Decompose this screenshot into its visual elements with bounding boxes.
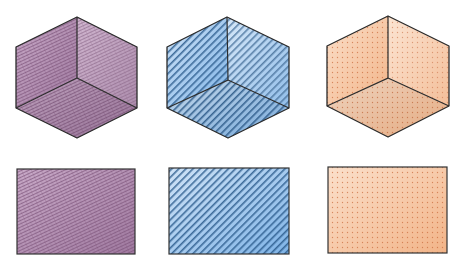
cubes-row	[16, 16, 449, 138]
swatches-row	[17, 167, 447, 254]
swatch-purple	[17, 169, 135, 254]
swatch-blue	[169, 168, 289, 254]
swatch-orange	[328, 167, 447, 253]
texture-diagram	[0, 0, 466, 269]
cube-purple	[16, 17, 137, 138]
cube-blue	[167, 17, 289, 138]
cube-orange	[327, 16, 449, 137]
